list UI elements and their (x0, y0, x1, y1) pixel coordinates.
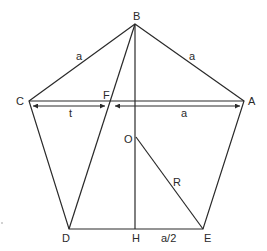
dim-label-bc: a (76, 50, 83, 62)
pentagon-diagram: B C A F O D H E a a t a R a/2 (0, 0, 267, 251)
pentagon-outline (29, 24, 244, 229)
label-o: O (124, 133, 133, 145)
artifact-dot (1, 222, 3, 224)
label-e: E (204, 232, 211, 244)
label-f: F (103, 89, 110, 101)
label-c: C (16, 95, 24, 107)
dim-label-fa: a (181, 107, 188, 119)
label-a: A (248, 95, 256, 107)
radius-oe (136, 137, 203, 229)
dim-label-he: a/2 (161, 232, 176, 244)
dim-label-cf: t (69, 107, 72, 119)
dim-label-ba: a (189, 50, 196, 62)
dim-label-oe: R (173, 176, 181, 188)
label-h: H (132, 232, 140, 244)
label-b: B (133, 10, 140, 22)
label-d: D (62, 232, 70, 244)
